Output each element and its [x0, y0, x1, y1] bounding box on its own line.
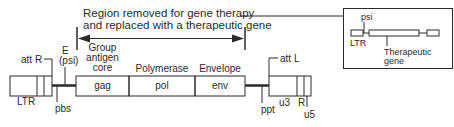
inset-ltr-label: LTR [350, 38, 367, 48]
inset-ltr-right [427, 30, 439, 36]
arrowhead-right-icon [232, 35, 244, 43]
r-label: R [298, 97, 305, 108]
gene-pol: pol Polymerase [129, 63, 195, 96]
gene-gag: gag Group antigen core [76, 42, 129, 96]
pbs-label: pbs [55, 103, 71, 114]
psi-label: (psi) [59, 55, 78, 66]
inset-psi-label: psi [361, 12, 373, 22]
title-line-1: Region removed for gene therapy [83, 7, 255, 19]
inset-vector: psi LTR Therapeutic gene [344, 9, 453, 69]
pol-caption: Polymerase [136, 63, 189, 74]
u5-label: u5 [304, 109, 316, 120]
inset-gene-label-2: gene [384, 56, 404, 66]
inset-ltr-left [351, 30, 363, 36]
left-ltr-label: LTR [17, 96, 35, 107]
ppt-label: ppt [261, 104, 275, 115]
att-l-label: att L [280, 53, 300, 64]
gene-gag-label: gag [94, 80, 111, 91]
env-caption: Envelope [199, 63, 241, 74]
right-ltr: att L u3 R u5 [269, 53, 316, 120]
gene-env-label: env [212, 80, 228, 91]
gene-pol-label: pol [155, 80, 168, 91]
inset-therapeutic-gene [369, 30, 419, 36]
left-ltr: LTR att R [10, 54, 52, 107]
retroviral-vector-diagram: Region removed for gene therapy and repl… [0, 0, 454, 127]
u3-label: u3 [279, 97, 291, 108]
gene-env: env Envelope [195, 63, 245, 96]
title-line-2: and replaced with a therapeutic gene [83, 19, 272, 31]
att-r-label: att R [21, 54, 42, 65]
gag-caption-3: core [93, 62, 113, 73]
